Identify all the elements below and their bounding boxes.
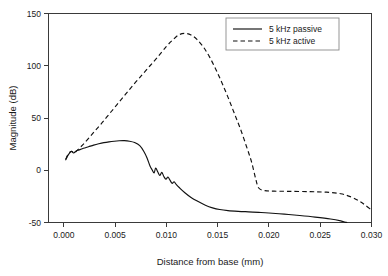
series-path-5-khz-passive [66,141,347,223]
x-tick-label-2: 0.010 [156,230,178,240]
x-tick-label-5: 0.025 [310,230,332,240]
y-tick-label-0: -50 [29,218,42,228]
y-axis-ticks [44,14,49,223]
data-series-group [66,33,372,222]
legend-label-passive: 5 kHz passive [269,24,322,34]
x-axis-ticks [64,223,372,228]
x-tick-label-3: 0.015 [207,230,229,240]
y-axis-tick-labels: -50050100150 [27,9,41,228]
x-axis-tick-labels: 0.0000.0050.0100.0150.0200.0250.030 [53,230,382,240]
x-axis-title: Distance from base (mm) [157,256,264,267]
y-axis-title: Magnitude (dB) [7,86,18,151]
chart-legend: 5 kHz passive 5 kHz active [226,18,339,50]
legend-label-active: 5 kHz active [269,36,316,46]
y-tick-label-2: 50 [32,113,42,123]
y-tick-label-1: 0 [36,165,41,175]
x-tick-label-4: 0.020 [258,230,280,240]
y-tick-label-3: 100 [27,61,41,71]
chart-figure: 0.0000.0050.0100.0150.0200.0250.030 -500… [0,0,388,276]
x-tick-label-0: 0.000 [53,230,75,240]
x-tick-label-1: 0.005 [105,230,127,240]
x-tick-label-6: 0.030 [361,230,383,240]
line-chart: 0.0000.0050.0100.0150.0200.0250.030 -500… [0,0,388,276]
series-path-5-khz-active [66,33,372,210]
y-tick-label-4: 150 [27,9,41,19]
